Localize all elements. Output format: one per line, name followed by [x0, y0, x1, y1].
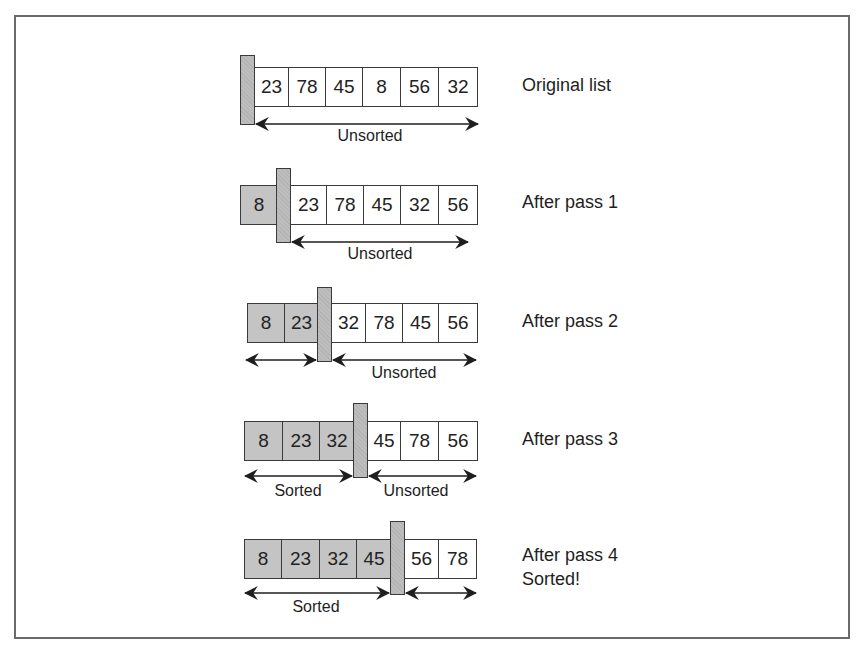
range-arrows: [0, 0, 865, 654]
